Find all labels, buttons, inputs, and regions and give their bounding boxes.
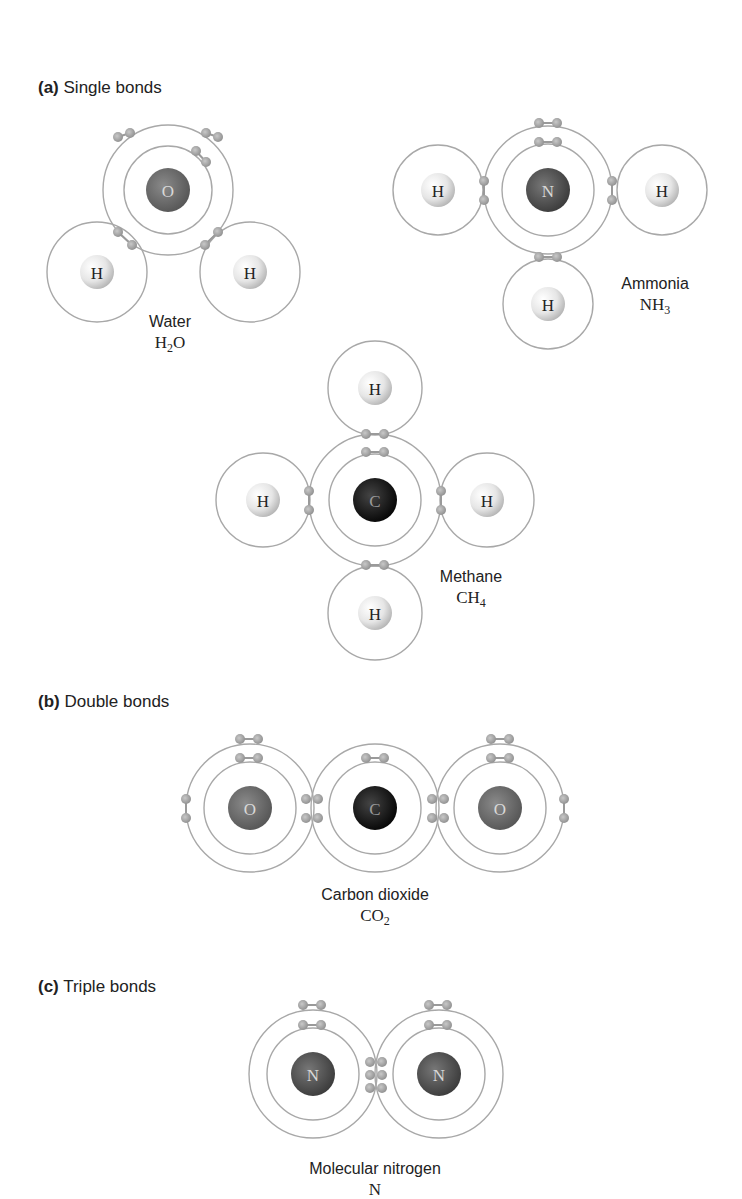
atom-label: H: [542, 296, 554, 315]
atom-label: N: [542, 182, 554, 201]
water-orbits: [47, 125, 300, 322]
atom-label: H: [91, 264, 103, 283]
atom-label: N: [307, 1066, 319, 1085]
molecule-name-nitrogen: Molecular nitrogen: [270, 1160, 480, 1178]
molecule-name-water: Water: [110, 313, 230, 331]
section-label-double-bonds: (b) Double bonds: [38, 692, 169, 712]
nuclei: [80, 168, 679, 1096]
atom-label: H: [656, 182, 668, 201]
atom-label: O: [494, 800, 506, 819]
atom-label: C: [369, 800, 380, 819]
n2-orbits: [249, 1010, 503, 1138]
atom-label: O: [244, 800, 256, 819]
molecule-name-methane: Methane: [416, 568, 526, 586]
section-label-single-bonds: (a) Single bonds: [38, 78, 162, 98]
atom-label: N: [433, 1066, 445, 1085]
section-label-triple-bonds: (c) Triple bonds: [38, 977, 156, 997]
atom-label: H: [244, 264, 256, 283]
atom-label: O: [162, 182, 174, 201]
molecule-formula-ammonia: NH3: [600, 295, 710, 318]
atom-label: H: [257, 492, 269, 511]
molecule-name-carbon-dioxide: Carbon dioxide: [280, 886, 470, 904]
molecule-formula-methane: CH4: [416, 588, 526, 611]
atom-label: H: [432, 182, 444, 201]
molecule-formula-water: H2O: [110, 333, 230, 356]
atom-label: C: [369, 492, 380, 511]
atom-label: H: [369, 380, 381, 399]
atom-label: H: [481, 492, 493, 511]
molecule-formula-nitrogen: N: [270, 1180, 480, 1199]
molecule-name-ammonia: Ammonia: [600, 275, 710, 293]
molecule-formula-carbon-dioxide: CO2: [280, 906, 470, 929]
atom-label: H: [369, 605, 381, 624]
